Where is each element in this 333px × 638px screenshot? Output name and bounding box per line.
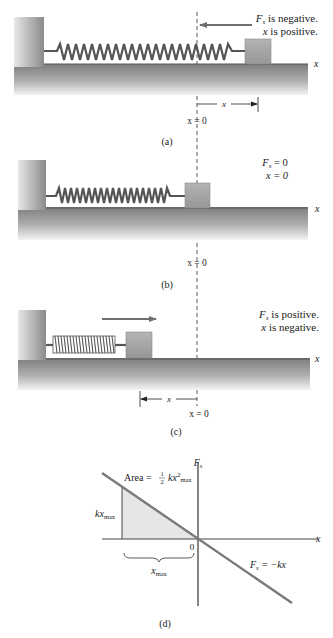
svg-text:x = 0: x = 0 bbox=[265, 170, 289, 181]
svg-text:kxmax: kxmax bbox=[95, 508, 116, 520]
svg-text:(b): (b) bbox=[161, 279, 173, 291]
panel-c: Fs is positive. x is negative. x x x = 0… bbox=[18, 308, 320, 438]
svg-text:Fs is positive.: Fs is positive. bbox=[258, 308, 319, 322]
floor bbox=[18, 358, 310, 390]
svg-text:2: 2 bbox=[160, 478, 163, 485]
svg-text:1: 1 bbox=[160, 470, 163, 477]
brace bbox=[124, 553, 194, 562]
svg-text:(d): (d) bbox=[159, 618, 171, 630]
block bbox=[185, 183, 210, 208]
svg-text:Area =: Area = bbox=[124, 472, 152, 483]
svg-text:0: 0 bbox=[190, 542, 195, 552]
svg-text:Fs: Fs bbox=[193, 457, 203, 469]
svg-text:x is negative.: x is negative. bbox=[260, 321, 319, 333]
svg-text:x is positive.: x is positive. bbox=[262, 25, 319, 37]
floor bbox=[14, 64, 308, 95]
svg-text:Fs is negative.: Fs is negative. bbox=[255, 12, 319, 26]
panel-b: Fs = 0 x = 0 x x = 0 (b) bbox=[18, 157, 320, 291]
panel-d-graph: Fs x 0 Area = 1 2 kx2max kxmax xmax Fs =… bbox=[95, 457, 321, 630]
wall bbox=[14, 17, 44, 67]
panel-a: Fs is negative. x is positive. x x x = 0… bbox=[14, 12, 319, 148]
wall bbox=[18, 160, 46, 210]
spring-force-diagram: Fs is negative. x is positive. x x x = 0… bbox=[0, 0, 333, 638]
svg-text:x = 0: x = 0 bbox=[187, 258, 207, 268]
svg-text:x: x bbox=[166, 394, 171, 404]
svg-text:x = 0: x = 0 bbox=[187, 116, 207, 126]
svg-text:x: x bbox=[314, 353, 320, 364]
svg-text:x: x bbox=[313, 58, 319, 69]
svg-text:x: x bbox=[315, 533, 321, 544]
svg-text:Fs = −kx: Fs = −kx bbox=[249, 559, 287, 571]
svg-text:kx2max: kx2max bbox=[168, 471, 192, 483]
svg-text:(c): (c) bbox=[170, 426, 181, 438]
wall bbox=[18, 310, 46, 360]
block bbox=[126, 332, 152, 358]
svg-text:Fs = 0: Fs = 0 bbox=[261, 157, 288, 170]
spring-relaxed bbox=[46, 188, 185, 203]
svg-text:xmax: xmax bbox=[150, 565, 167, 577]
svg-text:x: x bbox=[221, 99, 226, 109]
floor bbox=[18, 207, 308, 240]
spring-stretched bbox=[44, 44, 245, 60]
svg-text:x: x bbox=[314, 203, 320, 214]
block bbox=[245, 39, 271, 64]
svg-text:(a): (a) bbox=[161, 136, 172, 148]
svg-text:x = 0: x = 0 bbox=[189, 409, 209, 419]
